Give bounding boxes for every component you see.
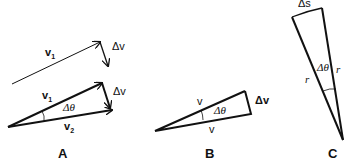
panel-c: Δs Δθ r r C xyxy=(292,0,343,161)
delta-v-label-b: Δv xyxy=(255,94,270,106)
left-radius-label: r xyxy=(305,73,310,85)
delta-v-label-a: Δv xyxy=(113,85,126,97)
panel-c-label: C xyxy=(328,146,338,161)
angle-arc-b xyxy=(201,110,203,120)
arc-c xyxy=(292,8,322,17)
panel-a: v1 Δv v1 Δθ v2 Δv A xyxy=(8,40,126,161)
angle-label-c: Δθ xyxy=(316,61,329,73)
v1-label: v1 xyxy=(42,89,52,103)
angle-label-a: Δθ xyxy=(62,101,75,113)
v2-arrow xyxy=(8,110,112,127)
panel-b: v Δθ v Δv B xyxy=(155,91,270,161)
panel-b-label: B xyxy=(205,146,214,161)
delta-v-top-arrow xyxy=(100,42,108,66)
right-radius-label: r xyxy=(336,63,341,75)
v1-top-label: v1 xyxy=(45,46,55,60)
v2-label: v2 xyxy=(64,120,74,134)
angle-arc-a xyxy=(42,111,44,121)
left-radius xyxy=(292,17,343,140)
upper-side-label-b: v xyxy=(197,95,203,107)
v1-top-arrow xyxy=(12,42,100,84)
lower-side-label-b: v xyxy=(209,123,215,135)
delta-v-top-label: Δv xyxy=(112,40,125,52)
arc-label-c: Δs xyxy=(298,0,311,9)
vector-diagram: v1 Δv v1 Δθ v2 Δv A v Δθ v Δv B Δs Δθ r … xyxy=(0,0,350,163)
triangle-b xyxy=(155,91,251,131)
panel-a-label: A xyxy=(58,146,68,161)
v1-arrow xyxy=(8,83,102,127)
angle-label-b: Δθ xyxy=(213,104,226,116)
delta-v-arrow xyxy=(102,83,110,108)
